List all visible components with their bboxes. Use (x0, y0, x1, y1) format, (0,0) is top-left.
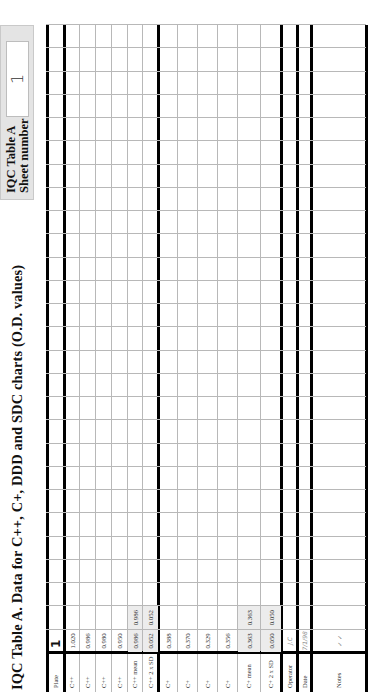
cell-cpp4-col23[interactable] (112, 118, 127, 140)
cell-notes-col15[interactable] (312, 304, 366, 326)
cell-cpp4-col13[interactable] (112, 351, 127, 373)
cell-cp-mean-col19[interactable] (238, 211, 260, 233)
cell-cpp2-col18[interactable] (80, 234, 95, 256)
cell-cpp2-col7[interactable] (80, 490, 95, 512)
cell-operator-col6[interactable] (282, 513, 297, 535)
cell-cpp2-col10[interactable] (80, 420, 95, 442)
cell-cpp3-col5[interactable] (96, 537, 111, 559)
cell-cp-mean-col23[interactable] (238, 118, 260, 140)
cell-date-col24[interactable] (298, 95, 311, 117)
cell-cpp3-col23[interactable] (96, 118, 111, 140)
cell-cp3-col25[interactable] (198, 72, 217, 94)
cell-cp-2sd-col2[interactable]: 0.050 (261, 607, 281, 629)
cell-cp-mean-col9[interactable] (238, 444, 260, 466)
cell-cpp2-col2[interactable] (80, 607, 95, 629)
cell-plate-col6[interactable] (48, 513, 64, 535)
cell-cp1-col13[interactable] (159, 351, 177, 373)
cell-operator-col19[interactable] (282, 211, 297, 233)
cell-cp4-col5[interactable] (218, 537, 237, 559)
cell-cpp-mean-col19[interactable] (128, 211, 142, 233)
cell-notes-col27[interactable] (312, 25, 366, 47)
cell-cp-mean-col24[interactable] (238, 95, 260, 117)
cell-cpp1-col5[interactable] (65, 537, 79, 559)
cell-cpp2-col20[interactable] (80, 188, 95, 210)
cell-cpp-mean-col1[interactable]: 0.986 (128, 630, 142, 652)
cell-cpp3-col2[interactable] (96, 607, 111, 629)
cell-cpp4-col8[interactable] (112, 467, 127, 489)
cell-cp1-col5[interactable] (159, 537, 177, 559)
cell-cpp3-col1[interactable]: 0.980 (96, 630, 111, 652)
cell-cp-2sd-col14[interactable] (261, 327, 281, 349)
cell-cp3-col2[interactable] (198, 607, 217, 629)
cell-cpp4-col27[interactable] (112, 25, 127, 47)
cell-cp2-col22[interactable] (178, 141, 197, 163)
cell-cpp2-col22[interactable] (80, 141, 95, 163)
cell-cp1-col9[interactable] (159, 444, 177, 466)
cell-cp3-col17[interactable] (198, 258, 217, 280)
cell-cp-mean-col10[interactable] (238, 420, 260, 442)
cell-notes-col1[interactable]: ✓ ✓ (312, 630, 366, 652)
cell-cpp-mean-col2[interactable]: 0.986 (128, 607, 142, 629)
cell-notes-col17[interactable] (312, 258, 366, 280)
cell-date-col23[interactable] (298, 118, 311, 140)
cell-cp-2sd-col20[interactable] (261, 188, 281, 210)
cell-cp-mean-col2[interactable]: 0.363 (238, 607, 260, 629)
cell-cp2-col11[interactable] (178, 397, 197, 419)
cell-operator-col23[interactable] (282, 118, 297, 140)
cell-operator-col4[interactable] (282, 560, 297, 582)
cell-notes-col14[interactable] (312, 327, 366, 349)
cell-cpp-mean-col21[interactable] (128, 165, 142, 187)
cell-cpp4-col17[interactable] (112, 258, 127, 280)
cell-date-col5[interactable] (298, 537, 311, 559)
cell-cp-2sd-col16[interactable] (261, 281, 281, 303)
cell-cpp3-col9[interactable] (96, 444, 111, 466)
cell-cpp-2sd-col13[interactable] (143, 351, 158, 373)
cell-cp-2sd-col10[interactable] (261, 420, 281, 442)
cell-cpp1-col20[interactable] (65, 188, 79, 210)
cell-plate-col26[interactable] (48, 48, 64, 70)
cell-cp2-col17[interactable] (178, 258, 197, 280)
cell-operator-col3[interactable] (282, 583, 297, 605)
cell-cp1-col8[interactable] (159, 467, 177, 489)
cell-cp-2sd-col1[interactable]: 0.050 (261, 630, 281, 652)
cell-cpp3-col18[interactable] (96, 234, 111, 256)
cell-cp4-col24[interactable] (218, 95, 237, 117)
cell-notes-col2[interactable] (312, 607, 366, 629)
cell-date-col20[interactable] (298, 188, 311, 210)
cell-cp-mean-col13[interactable] (238, 351, 260, 373)
cell-cpp1-col17[interactable] (65, 258, 79, 280)
cell-cp-2sd-col26[interactable] (261, 48, 281, 70)
cell-cpp-2sd-col6[interactable] (143, 513, 158, 535)
cell-cp1-col2[interactable] (159, 607, 177, 629)
cell-cpp1-col1[interactable]: 1.020 (65, 630, 79, 652)
cell-cpp4-col3[interactable] (112, 583, 127, 605)
cell-date-col4[interactable] (298, 560, 311, 582)
cell-notes-col3[interactable] (312, 583, 366, 605)
cell-cpp4-col20[interactable] (112, 188, 127, 210)
cell-date-col6[interactable] (298, 513, 311, 535)
cell-cpp1-col23[interactable] (65, 118, 79, 140)
cell-plate-col11[interactable] (48, 397, 64, 419)
cell-cp-mean-col25[interactable] (238, 72, 260, 94)
cell-cpp-2sd-col5[interactable] (143, 537, 158, 559)
cell-cpp-mean-col17[interactable] (128, 258, 142, 280)
cell-cpp3-col11[interactable] (96, 397, 111, 419)
cell-cpp1-col4[interactable] (65, 560, 79, 582)
cell-plate-col24[interactable] (48, 95, 64, 117)
cell-notes-col16[interactable] (312, 281, 366, 303)
cell-cpp1-col22[interactable] (65, 141, 79, 163)
cell-operator-col13[interactable] (282, 351, 297, 373)
cell-cpp1-col3[interactable] (65, 583, 79, 605)
cell-operator-col20[interactable] (282, 188, 297, 210)
cell-cp2-col9[interactable] (178, 444, 197, 466)
cell-plate-col19[interactable] (48, 211, 64, 233)
cell-cp2-col27[interactable] (178, 25, 197, 47)
cell-cpp4-col7[interactable] (112, 490, 127, 512)
cell-cp3-col18[interactable] (198, 234, 217, 256)
cell-cp1-col6[interactable] (159, 513, 177, 535)
cell-cpp4-col14[interactable] (112, 327, 127, 349)
cell-cpp-2sd-col22[interactable] (143, 141, 158, 163)
cell-cpp2-col9[interactable] (80, 444, 95, 466)
cell-cp-2sd-col23[interactable] (261, 118, 281, 140)
cell-cpp4-col18[interactable] (112, 234, 127, 256)
